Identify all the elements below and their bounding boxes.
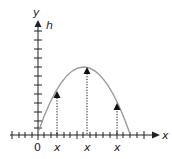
- trajectory-curve: [39, 67, 130, 134]
- x-axis: [10, 131, 157, 139]
- trajectory-diagram: y h x 0 x x x: [0, 0, 172, 159]
- y-axis: [34, 24, 42, 140]
- height-marker-2: [84, 67, 91, 134]
- x-axis-arrow-icon: [152, 132, 160, 139]
- height-marker-1: [54, 91, 61, 134]
- h-axis-label: h: [46, 19, 53, 32]
- y-axis-arrow-icon: [35, 20, 42, 27]
- x-tick-label-1: x: [53, 141, 61, 154]
- y-axis-label: y: [32, 6, 40, 19]
- origin-label: 0: [34, 141, 41, 154]
- x-tick-label-3: x: [113, 141, 121, 154]
- x-axis-label: x: [161, 129, 169, 142]
- x-tick-label-2: x: [83, 141, 91, 154]
